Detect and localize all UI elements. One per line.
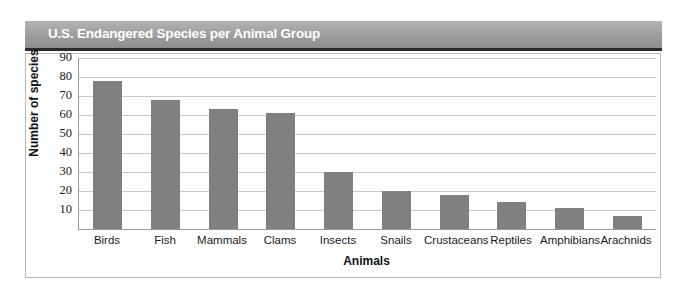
- gridline: [79, 77, 656, 78]
- x-axis-tick-label: Insects: [309, 234, 367, 246]
- y-axis-tick-label: 40: [32, 145, 72, 160]
- chart-title: U.S. Endangered Species per Animal Group: [48, 26, 320, 41]
- x-axis-tick-label: Clams: [251, 234, 309, 246]
- x-axis-tick-label: Snails: [367, 234, 425, 246]
- y-axis-tick-label: 80: [32, 69, 72, 84]
- plot-area: [78, 58, 656, 230]
- x-axis-title: Animals: [78, 254, 655, 268]
- gridline: [79, 58, 656, 59]
- bar-arachnids: [613, 216, 642, 229]
- x-axis-tick-label: Arachnids: [597, 234, 655, 246]
- bar-fish: [151, 100, 180, 229]
- y-axis-tick-label: 50: [32, 126, 72, 141]
- bar-birds: [93, 81, 122, 229]
- bar-snails: [382, 191, 411, 229]
- y-axis-tick-label: 90: [32, 50, 72, 65]
- y-axis-tick-labels: 102030405060708090: [30, 58, 72, 229]
- bar-mammals: [209, 109, 238, 229]
- y-axis-tick-label: 30: [32, 164, 72, 179]
- x-axis-tick-label: Birds: [78, 234, 136, 246]
- gridline: [79, 96, 656, 97]
- bar-reptiles: [497, 202, 526, 229]
- y-axis-tick-label: 70: [32, 88, 72, 103]
- bar-clams: [266, 113, 295, 229]
- y-axis-tick-label: 20: [32, 183, 72, 198]
- bar-amphibians: [555, 208, 584, 229]
- x-axis-tick-label: Reptiles: [482, 234, 540, 246]
- y-axis-tick-label: 10: [32, 202, 72, 217]
- x-axis-tick-label: Amphibians: [540, 234, 598, 246]
- bar-insects: [324, 172, 353, 229]
- chart-figure: U.S. Endangered Species per Animal Group…: [0, 0, 685, 299]
- x-axis-tick-label: Fish: [136, 234, 194, 246]
- bar-crustaceans: [440, 195, 469, 229]
- x-axis-tick-label: Mammals: [193, 234, 251, 246]
- y-axis-tick-label: 60: [32, 107, 72, 122]
- chart-title-banner-shadow: [25, 48, 662, 51]
- x-axis-tick-label: Crustaceans: [424, 234, 482, 246]
